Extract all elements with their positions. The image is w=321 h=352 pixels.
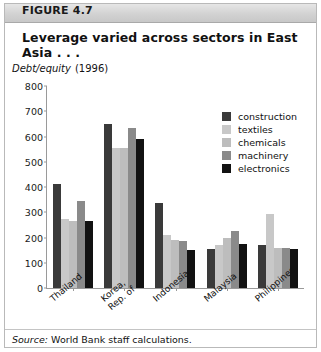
y-axis-tick-mark xyxy=(44,212,47,213)
x-axis-labels: ThailandKorea,Rep. ofIndonesiaMalaysiaPh… xyxy=(46,292,304,338)
bar-machinery xyxy=(128,128,136,288)
y-axis-tick-label: 200 xyxy=(25,232,43,243)
bar-construction xyxy=(104,124,112,288)
legend-swatch-icon xyxy=(222,138,231,147)
legend-swatch-icon xyxy=(222,125,231,134)
bar-construction xyxy=(155,203,163,288)
y-axis-tick-mark xyxy=(44,111,47,112)
y-axis-tick-label: 800 xyxy=(25,81,43,92)
source-text: World Bank staff calculations. xyxy=(51,334,192,345)
y-axis-tick-mark xyxy=(44,161,47,162)
figure-root: FIGURE 4.7 Leverage varied across sector… xyxy=(0,0,321,352)
bar-group xyxy=(104,86,144,288)
source-divider xyxy=(5,329,316,330)
legend-swatch-icon xyxy=(222,164,231,173)
legend-item-textiles: textiles xyxy=(222,123,314,136)
y-axis-tick-label: 100 xyxy=(25,257,43,268)
legend-swatch-icon xyxy=(222,151,231,160)
bar-textiles xyxy=(61,219,69,288)
y-axis-tick-label: 600 xyxy=(25,131,43,142)
bar-chemicals xyxy=(120,148,128,288)
legend-item-chemicals: chemicals xyxy=(222,136,314,149)
legend-item-machinery: machinery xyxy=(222,149,314,162)
source-note: Source: World Bank staff calculations. xyxy=(12,334,192,345)
bar-electronics xyxy=(187,250,195,288)
y-axis-tick-label: 500 xyxy=(25,156,43,167)
y-axis-tick-mark xyxy=(44,262,47,263)
legend-label: machinery xyxy=(238,150,288,161)
plot-wrapper: 0100200300400500600700800 ThailandKorea,… xyxy=(0,0,321,352)
bar-construction xyxy=(53,184,61,288)
y-axis-tick-label: 400 xyxy=(25,182,43,193)
x-axis-tick-mark xyxy=(278,288,279,291)
bar-group xyxy=(155,86,195,288)
bar-construction xyxy=(258,245,266,288)
bar-construction xyxy=(207,249,215,288)
bar-electronics xyxy=(239,244,247,288)
y-axis-tick-label: 700 xyxy=(25,106,43,117)
legend-label: textiles xyxy=(238,124,273,135)
chart-legend: constructiontextileschemicalsmachineryel… xyxy=(222,110,314,175)
y-axis-tick-mark xyxy=(44,237,47,238)
y-axis-tick-label: 0 xyxy=(37,283,43,294)
legend-item-electronics: electronics xyxy=(222,162,314,175)
legend-label: construction xyxy=(238,111,297,122)
y-axis-tick-mark xyxy=(44,187,47,188)
legend-item-construction: construction xyxy=(222,110,314,123)
y-axis-tick-mark xyxy=(44,86,47,87)
bar-textiles xyxy=(112,148,120,288)
y-axis-tick-label: 300 xyxy=(25,207,43,218)
legend-label: chemicals xyxy=(238,137,286,148)
legend-swatch-icon xyxy=(222,112,231,121)
y-axis-tick-mark xyxy=(44,136,47,137)
bar-group xyxy=(53,86,93,288)
source-prefix: Source: xyxy=(12,334,48,345)
legend-label: electronics xyxy=(238,163,290,174)
bar-textiles xyxy=(266,214,274,288)
y-axis-tick-mark xyxy=(44,288,47,289)
bar-electronics xyxy=(136,139,144,288)
bar-electronics xyxy=(85,221,93,288)
